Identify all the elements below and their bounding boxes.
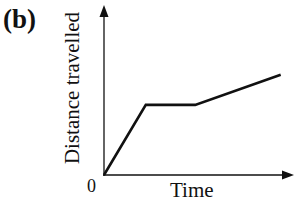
x-axis-arrow-icon — [282, 171, 294, 180]
y-axis-arrow-icon — [100, 5, 109, 17]
plot-area — [0, 0, 295, 217]
distance-line — [104, 75, 281, 175]
distance-time-figure: (b) Distance travelled Time 0 — [0, 0, 295, 217]
